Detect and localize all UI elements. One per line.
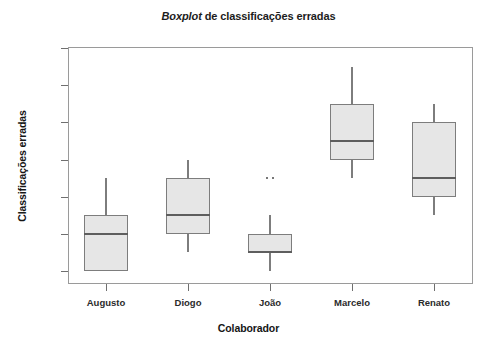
whisker-lower <box>433 197 435 216</box>
chart-title-italic: Boxplot <box>161 10 201 22</box>
y-axis-label-text: Classificações erradas <box>16 110 28 222</box>
x-tick-label-augusto: Augusto <box>66 297 146 308</box>
whisker-upper <box>105 178 107 215</box>
whisker-lower <box>351 160 353 179</box>
whisker-lower <box>269 252 271 271</box>
x-tick-label-joão: João <box>230 297 310 308</box>
box-iqr <box>166 178 210 234</box>
median-line <box>248 251 292 253</box>
box-iqr <box>412 122 456 196</box>
outlier-point <box>266 177 269 180</box>
whisker-lower <box>187 234 189 253</box>
y-tick-mark <box>61 234 68 235</box>
chart-title-rest: de classificações erradas <box>202 10 336 22</box>
chart-title: Boxplot de classificações erradas <box>0 10 497 22</box>
median-line <box>84 233 128 235</box>
outlier-point <box>272 177 275 180</box>
y-axis-label: Classificações erradas <box>14 47 30 284</box>
x-tick-mark <box>352 284 353 291</box>
whisker-upper <box>269 215 271 234</box>
boxplot-figure: Boxplot de classificações erradas Classi… <box>0 0 497 351</box>
box-iqr <box>84 215 128 271</box>
x-tick-label-marcelo: Marcelo <box>312 297 392 308</box>
whisker-upper <box>351 67 353 104</box>
x-tick-label-diogo: Diogo <box>148 297 228 308</box>
x-tick-mark <box>434 284 435 291</box>
y-tick-mark <box>61 160 68 161</box>
plot-area <box>68 47 473 284</box>
x-tick-mark <box>188 284 189 291</box>
whisker-upper <box>433 104 435 123</box>
x-tick-label-renato: Renato <box>394 297 474 308</box>
median-line <box>166 214 210 216</box>
x-tick-mark <box>106 284 107 291</box>
y-tick-mark <box>61 271 68 272</box>
median-line <box>412 177 456 179</box>
y-tick-mark <box>61 48 68 49</box>
box-iqr <box>330 104 374 160</box>
y-tick-mark <box>61 85 68 86</box>
y-tick-mark <box>61 122 68 123</box>
x-tick-mark <box>270 284 271 291</box>
median-line <box>330 140 374 142</box>
box-iqr <box>248 234 292 253</box>
x-axis-label: Colaborador <box>0 322 497 334</box>
whisker-upper <box>187 160 189 179</box>
y-tick-mark <box>61 197 68 198</box>
